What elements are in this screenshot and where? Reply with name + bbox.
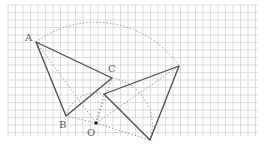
grid xyxy=(8,5,258,136)
segment-o-a-prime xyxy=(96,66,179,123)
arc-b-to-b-prime xyxy=(66,93,104,116)
label-a: A xyxy=(24,32,33,43)
triangle-abc xyxy=(36,42,112,116)
label-c: C xyxy=(108,63,116,74)
segment-o-b-prime xyxy=(96,94,104,123)
segment-o-a xyxy=(36,42,96,123)
label-o: O xyxy=(87,127,95,138)
label-b: B xyxy=(59,119,66,130)
triangle-rotated xyxy=(104,66,179,140)
arc-a-to-a-prime xyxy=(36,22,179,66)
rotation-diagram: A B C O xyxy=(0,0,268,154)
center-point-o xyxy=(94,121,98,125)
